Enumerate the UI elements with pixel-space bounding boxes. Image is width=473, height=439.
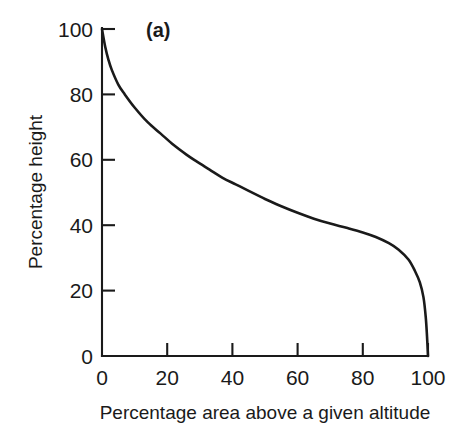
x-tick-label-60: 60 [286,366,309,389]
panel-label: (a) [146,19,170,41]
chart-canvas: 100 80 60 40 20 0 0 20 40 60 80 100 Perc… [0,0,473,439]
y-tick-label-60: 60 [70,148,93,171]
y-tick-label-40: 40 [70,214,93,237]
y-tick-label-100: 100 [58,18,93,41]
y-tick-label-0: 0 [81,345,93,368]
hypsometric-curve-line [102,29,428,356]
y-tick-label-20: 20 [70,279,93,302]
y-tick-label-80: 80 [70,83,93,106]
x-tick-label-20: 20 [156,366,179,389]
x-tick-label-100: 100 [410,366,445,389]
hypsometric-curve-figure: 100 80 60 40 20 0 0 20 40 60 80 100 Perc… [0,0,473,439]
x-tick-label-40: 40 [221,366,244,389]
x-tick-label-0: 0 [96,366,108,389]
x-tick-label-80: 80 [351,366,374,389]
x-axis-title: Percentage area above a given altitude [100,402,431,423]
y-axis-title: Percentage height [25,114,46,269]
